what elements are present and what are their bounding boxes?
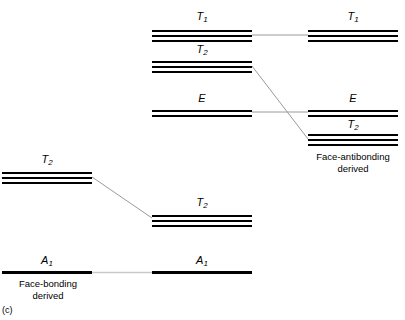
caption-line: Face-bonding	[0, 278, 96, 290]
level-line	[152, 66, 252, 68]
level-line	[308, 35, 398, 37]
term-subscript: 2	[354, 123, 358, 132]
level-line	[2, 182, 92, 184]
caption-line: derived	[303, 163, 403, 175]
level-line	[308, 144, 398, 146]
level-line	[308, 40, 398, 42]
level-line	[308, 115, 398, 117]
caption-line: derived	[0, 290, 96, 302]
level-line	[152, 225, 252, 227]
level-line	[152, 61, 252, 63]
term-subscript: 2	[203, 201, 207, 210]
level-label-left-a1: A1	[2, 255, 92, 266]
caption-face-antibonding-derived: Face-antibonding derived	[303, 151, 403, 174]
term-subscript: 1	[48, 259, 52, 268]
level-line	[308, 110, 398, 112]
connector-left-t2-to-middle-t2	[92, 177, 152, 218]
level-line	[152, 71, 252, 73]
level-line	[152, 40, 252, 42]
level-line	[152, 35, 252, 37]
term-subscript: 1	[203, 15, 207, 24]
figure-label: (c)	[2, 306, 13, 315]
level-line	[152, 115, 252, 117]
level-label-right-e: E	[308, 93, 398, 104]
level-line	[308, 134, 398, 136]
caption-line: Face-antibonding	[303, 151, 403, 163]
level-label-middle-e: E	[152, 93, 252, 104]
term-symbol: E	[349, 92, 356, 104]
level-line	[2, 177, 92, 179]
level-line	[308, 30, 398, 32]
caption-face-bonding-derived: Face-bonding derived	[0, 278, 96, 301]
term-subscript: 1	[203, 259, 207, 268]
term-subscript: 2	[203, 48, 207, 57]
term-subscript: 2	[48, 158, 52, 167]
energy-level-diagram: T1 T2 E T2 A1 T1	[0, 0, 405, 320]
level-label-middle-a1: A1	[152, 255, 252, 266]
level-line	[152, 220, 252, 222]
term-subscript: 1	[354, 15, 358, 24]
term-symbol: E	[198, 92, 205, 104]
level-line	[152, 271, 252, 274]
level-label-middle-t2-lower: T2	[152, 197, 252, 208]
level-line	[2, 271, 92, 274]
level-label-right-t1: T1	[308, 11, 398, 22]
level-line	[308, 139, 398, 141]
level-line	[2, 172, 92, 174]
level-label-middle-t1: T1	[152, 11, 252, 22]
level-label-right-t2: T2	[308, 119, 398, 130]
level-label-left-t2: T2	[2, 154, 92, 165]
level-line	[152, 30, 252, 32]
level-label-middle-t2-upper: T2	[152, 44, 252, 55]
connector-middle-t2-to-right-t2	[252, 66, 308, 139]
level-line	[152, 215, 252, 217]
level-line	[152, 110, 252, 112]
